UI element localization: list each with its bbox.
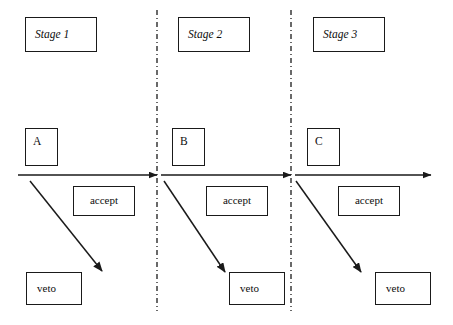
actor-box-a[interactable]: A bbox=[25, 128, 58, 166]
accept-label-stage-3: accept bbox=[355, 195, 383, 207]
veto-box-stage-2[interactable]: veto bbox=[229, 272, 285, 305]
veto-box-stage-3[interactable]: veto bbox=[375, 272, 431, 305]
actor-box-c[interactable]: C bbox=[307, 128, 340, 166]
actor-box-b[interactable]: B bbox=[172, 128, 205, 166]
stage-divider-2[interactable] bbox=[287, 10, 296, 311]
actor-label-a: A bbox=[33, 135, 41, 147]
stage-label-box-2[interactable]: Stage 2 bbox=[178, 17, 250, 52]
accept-box-stage-2[interactable]: accept bbox=[206, 186, 268, 216]
stage-label-box-1[interactable]: Stage 1 bbox=[25, 17, 97, 52]
stage-label-text-2: Stage 2 bbox=[188, 28, 222, 40]
stage-label-text-1: Stage 1 bbox=[35, 28, 69, 40]
veto-box-stage-1[interactable]: veto bbox=[26, 272, 82, 305]
stage-divider-1[interactable] bbox=[153, 10, 162, 311]
actor-label-c: C bbox=[315, 135, 323, 147]
veto-label-stage-2: veto bbox=[240, 283, 259, 295]
veto-label-stage-3: veto bbox=[386, 283, 405, 295]
veto-label-stage-1: veto bbox=[37, 283, 56, 295]
stage-label-box-3[interactable]: Stage 3 bbox=[313, 17, 385, 52]
actor-label-b: B bbox=[180, 135, 188, 147]
stage-label-text-3: Stage 3 bbox=[323, 28, 357, 40]
stage-process-diagram: Stage 1 A accept veto Stage 2 B accept v… bbox=[0, 0, 453, 325]
accept-label-stage-2: accept bbox=[223, 195, 251, 207]
accept-box-stage-3[interactable]: accept bbox=[338, 186, 400, 216]
accept-label-stage-1: accept bbox=[90, 195, 118, 207]
accept-box-stage-1[interactable]: accept bbox=[73, 186, 135, 216]
